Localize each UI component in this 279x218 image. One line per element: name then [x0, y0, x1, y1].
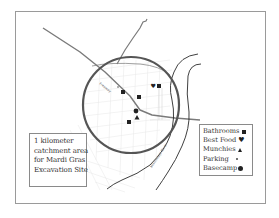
- legend-label: Bathrooms: [203, 127, 239, 136]
- triangle-icon: [238, 147, 244, 153]
- legend-item-munchies: Munchies: [203, 145, 250, 154]
- bathroom-marker[interactable]: [127, 120, 131, 124]
- square-icon: [241, 129, 247, 135]
- legend-item-best-food: Best Food: [203, 136, 250, 145]
- legend-label: Basecamp: [203, 164, 237, 173]
- legend-label: Munchies: [203, 145, 236, 154]
- legend-label: Parking: [203, 155, 229, 164]
- bathroom-marker[interactable]: [157, 84, 161, 88]
- catchment-circle: [83, 57, 179, 153]
- filled-circle-icon: [237, 165, 243, 171]
- caption-line: Excavation Site: [34, 166, 83, 176]
- freeway-label: Freeway: [98, 82, 112, 94]
- munchies-marker[interactable]: [135, 115, 140, 120]
- caption-line: for Mardi Gras: [34, 156, 83, 166]
- bathroom-marker[interactable]: [121, 90, 125, 94]
- basecamp-marker[interactable]: [134, 109, 139, 114]
- freeway-road: [43, 28, 200, 120]
- map-markers: ♥: [117, 82, 161, 124]
- parking-marker[interactable]: [117, 86, 119, 88]
- bathroom-marker[interactable]: [137, 95, 141, 99]
- best-food-marker[interactable]: ♥: [151, 82, 156, 89]
- legend-item-parking: Parking: [203, 155, 250, 164]
- caption-line: catchment area: [34, 147, 83, 157]
- caption-line: 1 kilometer: [34, 137, 83, 147]
- map-legend: Bathrooms Best Food Munchies Parking Bas…: [199, 124, 253, 176]
- catchment-caption: 1 kilometer catchment area for Mardi Gra…: [29, 133, 87, 187]
- river-label: Mississippi River: [149, 142, 168, 168]
- heart-icon: [238, 138, 244, 144]
- legend-label: Best Food: [203, 136, 236, 145]
- dot-icon: [234, 156, 240, 162]
- legend-item-basecamp: Basecamp: [203, 164, 250, 173]
